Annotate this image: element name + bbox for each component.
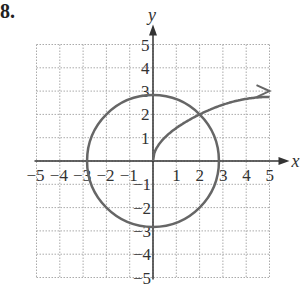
y-axis-arrow-icon bbox=[149, 25, 157, 36]
y-axis-label: y bbox=[146, 5, 156, 25]
x-axis-arrow-icon bbox=[279, 157, 290, 165]
y-tick-label: −4 bbox=[133, 245, 152, 264]
x-tick-label: −2 bbox=[96, 166, 114, 185]
x-tick-label: 4 bbox=[242, 166, 251, 185]
y-tick-label: 3 bbox=[141, 82, 150, 101]
y-tick-label: −2 bbox=[133, 199, 151, 218]
y-tick-label: 2 bbox=[141, 105, 150, 124]
y-tick-label: 4 bbox=[141, 59, 150, 78]
x-tick-label: 2 bbox=[196, 166, 205, 185]
x-tick-label: 5 bbox=[266, 166, 275, 185]
y-tick-label: 5 bbox=[141, 36, 150, 55]
x-tick-label: −4 bbox=[50, 166, 69, 185]
y-tick-label: 1 bbox=[141, 129, 150, 148]
y-tick-label: −5 bbox=[133, 269, 151, 287]
x-tick-label: −5 bbox=[27, 166, 45, 185]
y-tick-label: −1 bbox=[133, 175, 151, 194]
x-tick-label: 3 bbox=[219, 166, 228, 185]
graph: xy−5−4−3−2−11234554321−1−2−3−4−5 bbox=[0, 0, 300, 287]
x-tick-label: 1 bbox=[172, 166, 181, 185]
x-axis-label: x bbox=[291, 151, 300, 171]
